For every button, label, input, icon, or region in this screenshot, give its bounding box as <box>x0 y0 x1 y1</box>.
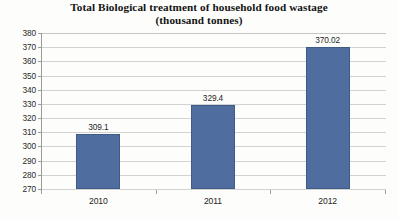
bar-2010[interactable] <box>76 134 120 189</box>
y-axis-tick-label: 310 <box>0 127 36 137</box>
bars-layer: 309.1329.4370.02 <box>41 33 385 189</box>
chart-title: Total Biological treatment of household … <box>0 1 398 14</box>
bar-slot: 329.4 <box>191 33 235 189</box>
x-axis-tick-label: 2011 <box>156 196 271 206</box>
bar-2011[interactable] <box>191 105 235 189</box>
bar-value-label: 370.02 <box>315 35 340 45</box>
gridline <box>42 189 386 190</box>
y-axis-tick-label: 270 <box>0 184 36 194</box>
bar-chart: Total Biological treatment of household … <box>0 0 398 219</box>
x-axis-labels: 201020112012 <box>41 196 385 210</box>
y-axis-tick-label: 340 <box>0 85 36 95</box>
y-axis-tick-label: 360 <box>0 56 36 66</box>
bar-slot: 370.02 <box>306 33 350 189</box>
bar-slot: 309.1 <box>76 33 120 189</box>
y-axis-tick-label: 380 <box>0 28 36 38</box>
x-axis-tick-label: 2012 <box>270 196 385 206</box>
y-axis-labels: 380370360350340330320310300290280270 <box>0 33 36 189</box>
x-tick-mark <box>156 190 157 194</box>
bar-2012[interactable] <box>306 47 350 189</box>
chart-title-block: Total Biological treatment of household … <box>0 1 398 26</box>
bar-value-label: 329.4 <box>203 93 223 103</box>
x-tick-mark <box>41 190 42 194</box>
y-axis-tick-label: 370 <box>0 42 36 52</box>
y-axis-tick-label: 320 <box>0 113 36 123</box>
bar-value-label: 309.1 <box>88 122 108 132</box>
y-axis-tick-label: 280 <box>0 170 36 180</box>
y-axis-tick-label: 290 <box>0 156 36 166</box>
y-axis-tick-label: 300 <box>0 141 36 151</box>
y-axis-tick-label: 330 <box>0 99 36 109</box>
y-axis-tick-label: 350 <box>0 71 36 81</box>
x-tick-mark <box>270 190 271 194</box>
x-axis-tick-label: 2010 <box>41 196 156 206</box>
x-tick-mark <box>385 190 386 194</box>
chart-subtitle: (thousand tonnes) <box>0 14 398 27</box>
